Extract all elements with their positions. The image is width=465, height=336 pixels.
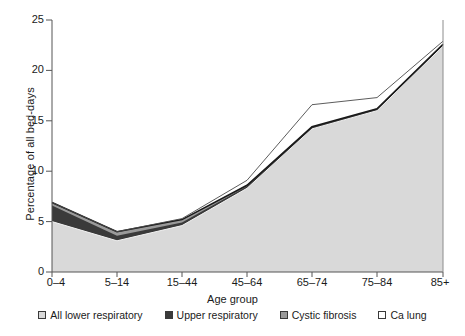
x-axis-tick-label: 15–44 [167, 276, 198, 288]
legend-item-upper-respiratory: Upper respiratory [165, 309, 258, 321]
legend-item-all-lower-respiratory: All lower respiratory [38, 309, 142, 321]
legend-swatch-upper-respiratory [165, 311, 173, 319]
chart-figure: Percentage of all bed-days 25 20 15 10 5… [0, 0, 465, 336]
legend-item-cystic-fibrosis: Cystic fibrosis [280, 309, 357, 321]
x-axis-tick-label: 75–84 [362, 276, 393, 288]
legend-label: All lower respiratory [50, 309, 142, 321]
chart-legend: All lower respiratory Upper respiratory … [0, 309, 465, 321]
legend-swatch-cystic-fibrosis [280, 311, 288, 319]
legend-item-ca-lung: Ca lung [378, 309, 426, 321]
legend-label: Cystic fibrosis [292, 309, 357, 321]
legend-label: Ca lung [390, 309, 426, 321]
x-axis-tick-label: 65–74 [297, 276, 328, 288]
x-axis-tick-label: 0–4 [47, 276, 65, 288]
x-axis-tick-label: 45–64 [232, 276, 263, 288]
legend-swatch-ca-lung [378, 311, 386, 319]
x-axis-tick-label: 5–14 [105, 276, 129, 288]
x-axis-title: Age group [0, 293, 465, 305]
x-axis-tick-label: 85+ [431, 276, 450, 288]
legend-label: Upper respiratory [177, 309, 258, 321]
legend-swatch-all-lower-respiratory [38, 311, 46, 319]
